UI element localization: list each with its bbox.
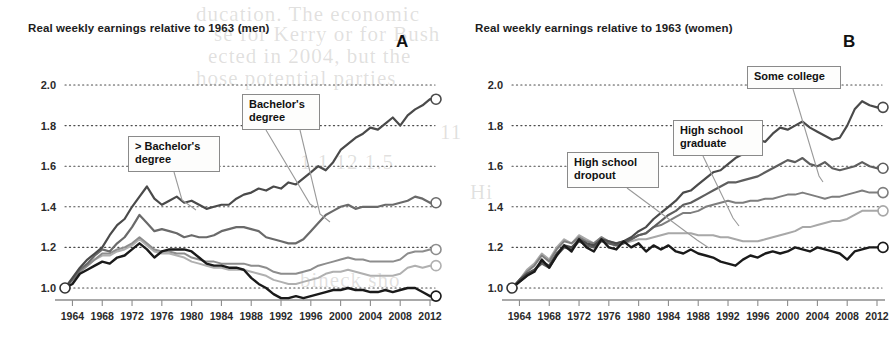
x-tick-label: 1984 [210, 310, 234, 322]
callout-leader-line [266, 130, 316, 208]
series-callout-label: High school dropout [567, 152, 659, 188]
x-tick-label: 2008 [389, 310, 413, 322]
series-line [512, 191, 877, 288]
series-callout-label: High school graduate [673, 120, 763, 156]
callout-leader-line [793, 89, 823, 182]
x-tick-label: 1980 [627, 310, 651, 322]
x-tick-label: 1988 [240, 310, 264, 322]
series-start-marker [507, 283, 517, 293]
series-end-marker [431, 94, 441, 104]
y-tick-label: 2.0 [488, 79, 503, 91]
panel-a: Real weekly earnings relative to 1963 (m… [0, 0, 447, 354]
series-line [512, 239, 877, 288]
panel-a-plot: 1.01.21.41.61.82.01964196819721976198019… [0, 0, 447, 354]
series-end-marker [878, 242, 888, 252]
x-tick-label: 1980 [180, 310, 204, 322]
x-tick-label: 2008 [836, 310, 860, 322]
y-tick-label: 1.4 [41, 201, 57, 213]
series-callout-label: > Bachelor's degree [128, 136, 220, 172]
series-end-marker [431, 291, 441, 301]
y-tick-label: 2.0 [41, 79, 56, 91]
series-end-marker [878, 206, 888, 216]
x-tick-label: 2004 [359, 310, 383, 322]
x-tick-label: 2000 [329, 310, 353, 322]
series-end-marker [878, 102, 888, 112]
x-tick-label: 1996 [299, 310, 323, 322]
figure-two-panel-line-charts: Real weekly earnings relative to 1963 (m… [0, 0, 894, 354]
x-tick-label: 1972 [567, 310, 591, 322]
x-tick-label: 1988 [687, 310, 711, 322]
series-end-marker [431, 198, 441, 208]
x-tick-label: 1968 [538, 310, 562, 322]
panel-b-plot: 1.01.21.41.61.82.01964196819721976198019… [447, 0, 894, 354]
y-tick-label: 1.4 [488, 201, 504, 213]
callout-leader-line [300, 130, 330, 222]
x-tick-label: 1992 [269, 310, 293, 322]
y-tick-label: 1.6 [41, 160, 56, 172]
y-tick-label: 1.2 [41, 241, 56, 253]
series-end-marker [878, 188, 888, 198]
series-end-marker [431, 261, 441, 271]
x-tick-label: 1968 [91, 310, 115, 322]
series-end-marker [878, 163, 888, 173]
x-tick-label: 2012 [418, 310, 442, 322]
series-callout-label: Some college [747, 66, 841, 89]
x-tick-label: 1972 [120, 310, 144, 322]
series-end-marker [431, 244, 441, 254]
panel-b: Real weekly earnings relative to 1963 (w… [447, 0, 894, 354]
series-line [65, 237, 430, 288]
y-tick-label: 1.8 [41, 120, 56, 132]
y-tick-label: 1.2 [488, 241, 503, 253]
x-tick-label: 1984 [657, 310, 681, 322]
x-tick-label: 1976 [150, 310, 174, 322]
series-callout-label: Bachelor's degree [242, 94, 320, 130]
x-tick-label: 1964 [61, 310, 85, 322]
x-tick-label: 2000 [776, 310, 800, 322]
x-tick-label: 1992 [716, 310, 740, 322]
y-tick-label: 1.0 [41, 282, 56, 294]
x-tick-label: 1996 [746, 310, 770, 322]
x-tick-label: 1964 [508, 310, 532, 322]
y-tick-label: 1.0 [488, 282, 503, 294]
callout-leader-line [174, 172, 196, 210]
y-tick-label: 1.6 [488, 160, 503, 172]
x-tick-label: 1976 [597, 310, 621, 322]
y-tick-label: 1.8 [488, 120, 503, 132]
x-tick-label: 2004 [806, 310, 830, 322]
x-tick-label: 2012 [865, 310, 889, 322]
series-start-marker [60, 283, 70, 293]
